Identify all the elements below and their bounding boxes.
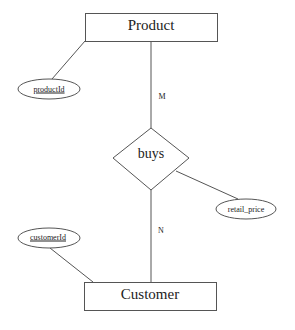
entity-customer-label: Customer <box>121 286 179 303</box>
cardinality-m-label: M <box>158 92 165 101</box>
entity-product-label: Product <box>128 17 175 34</box>
customer-to-customerid-line <box>50 248 93 282</box>
cardinality-n-label: N <box>158 226 164 235</box>
attribute-customerid-label: customerId <box>30 233 66 242</box>
relationship-buys-label: buys <box>138 146 164 162</box>
product-to-productid-line <box>52 41 85 79</box>
attribute-productid-label: productId <box>33 85 64 94</box>
er-diagram-canvas <box>0 0 295 330</box>
attribute-retailprice-label: retail_price <box>228 205 264 214</box>
buys-to-retailprice-line <box>176 171 238 199</box>
